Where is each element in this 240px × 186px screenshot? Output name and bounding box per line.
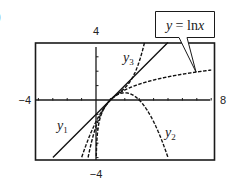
chart-canvas: ) 4 −4 −4 8 y3 y1 y2 y = lnx <box>0 0 240 186</box>
callout-label: y = lnx <box>164 18 205 33</box>
callout-ln-x: y = lnx <box>156 12 215 73</box>
label-y2: y2 <box>163 125 176 142</box>
curve-y2 <box>82 93 168 158</box>
y-min-label: −4 <box>90 168 103 180</box>
x-max-label: 8 <box>220 94 226 106</box>
label-y1: y1 <box>55 118 68 135</box>
label-y3: y3 <box>121 50 134 67</box>
y-max-label: 4 <box>93 25 99 37</box>
x-min-label: −4 <box>18 94 31 106</box>
curve-y-ln-x <box>96 70 211 156</box>
figure-corner-mark: ) <box>0 9 1 25</box>
